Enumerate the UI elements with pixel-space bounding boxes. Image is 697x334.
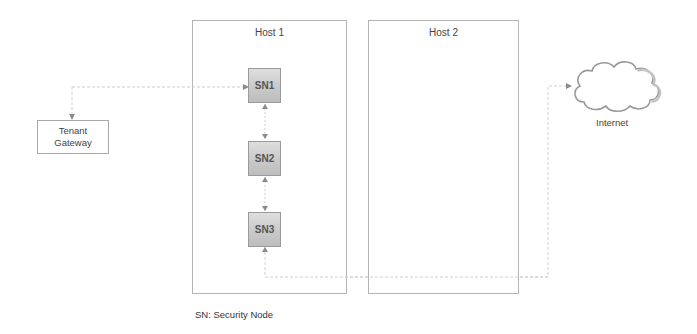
tenant-gateway-label-line2: Gateway (54, 137, 92, 149)
security-node-sn1[interactable]: SN1 (248, 68, 281, 103)
security-node-sn3[interactable]: SN3 (248, 212, 281, 247)
sn2-label: SN2 (255, 153, 274, 164)
security-node-sn2[interactable]: SN2 (248, 141, 281, 176)
legend-text: SN: Security Node (195, 309, 273, 320)
tenant-gateway-label-line1: Tenant (59, 125, 88, 137)
internet-cloud-icon[interactable] (570, 58, 665, 116)
sn1-label: SN1 (255, 80, 274, 91)
internet-label: Internet (596, 117, 628, 128)
connector-lines-overlay (0, 0, 697, 334)
tenant-gateway-box[interactable]: Tenant Gateway (37, 120, 109, 154)
sn3-label: SN3 (255, 224, 274, 235)
